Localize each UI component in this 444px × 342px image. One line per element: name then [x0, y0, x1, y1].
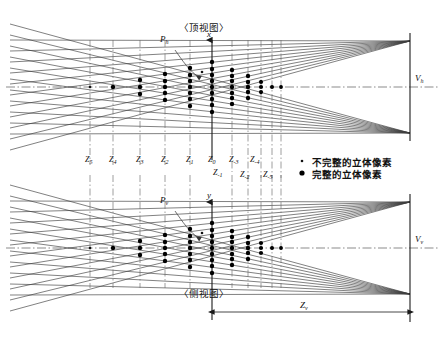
depth-label-z0: Z0: [208, 155, 215, 164]
legend-marker-incomplete-voxel: [301, 160, 304, 163]
depth-label-z1: Z1: [186, 155, 193, 164]
vh-label: Vh: [415, 73, 424, 83]
depth-plane-lines-side: [90, 175, 281, 288]
legend-marker-complete-voxel: [299, 170, 304, 175]
depth-label-zm1: Z-1: [213, 168, 222, 177]
y-axis-label: y: [207, 190, 211, 200]
vv-label: Vv: [415, 234, 423, 244]
figure-canvas: 〈顶视图〉 x Ph Vh Z5 Z4 Z3 Z2 Z1 Z0 Z-3 Z-4 …: [0, 0, 444, 342]
depth-label-zm4: Z-4: [250, 155, 259, 164]
pv-label: Pv: [160, 195, 168, 205]
top-view-title: 〈顶视图〉: [179, 20, 229, 34]
depth-label-z2: Z2: [161, 155, 168, 164]
depth-label-z4: Z4: [109, 155, 116, 164]
legend-label-complete-voxel: 完整的立体像素: [312, 167, 382, 181]
ph-label: Ph: [160, 34, 169, 44]
depth-label-zm2: Z-2: [240, 170, 249, 179]
depth-label-z3: Z3: [136, 155, 143, 164]
depth-label-zm3: Z-3: [229, 155, 238, 164]
depth-label-z5: Z5: [85, 155, 92, 164]
zv-distance-label: Zv: [300, 300, 308, 310]
side-view-title: 〈侧视图〉: [179, 286, 229, 300]
top-view-incomplete-voxels: [89, 71, 283, 96]
depth-label-zm5: Z-5: [263, 170, 272, 179]
x-axis-label: x: [207, 29, 211, 39]
